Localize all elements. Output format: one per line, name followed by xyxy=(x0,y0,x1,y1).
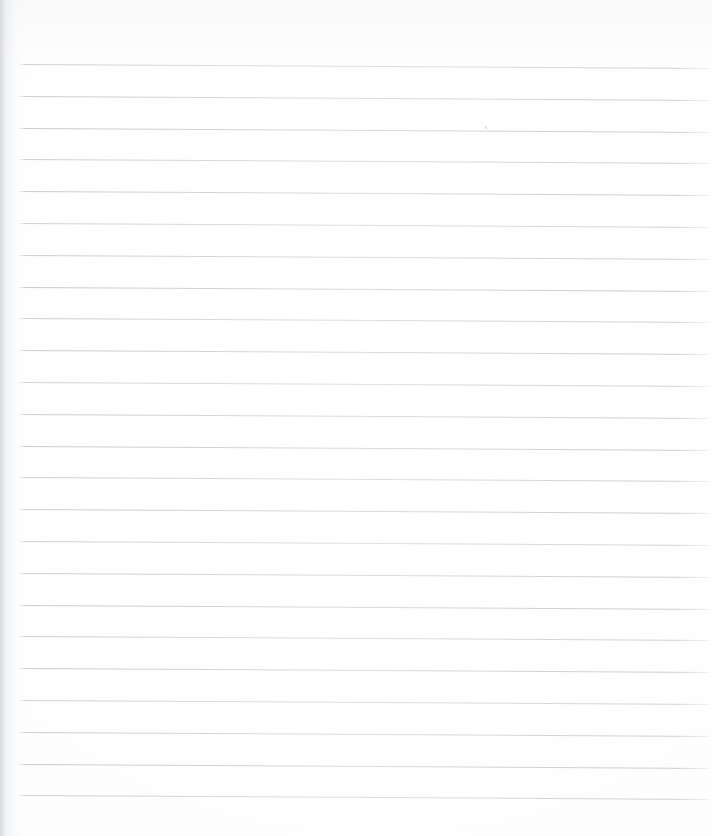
scanned-notebook-page xyxy=(0,0,727,836)
paper-surface xyxy=(0,0,727,836)
